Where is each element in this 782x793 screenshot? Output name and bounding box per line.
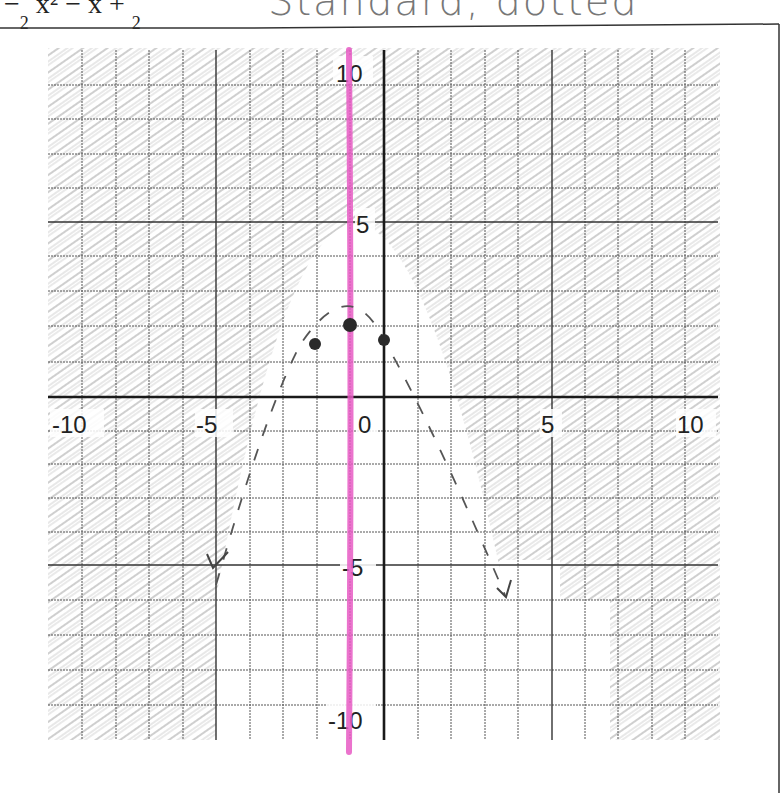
- point-y-intercept: [378, 334, 390, 346]
- axis-of-symmetry-highlight: [349, 50, 351, 752]
- x-tick-10: 10: [677, 411, 704, 438]
- x-tick-0: 0: [358, 411, 371, 438]
- x-tick-neg5: -5: [196, 411, 217, 438]
- y-tick-5: 5: [356, 211, 369, 238]
- y-tick-neg10: -10: [328, 707, 363, 734]
- point-neg2-1.5: [309, 338, 321, 350]
- x-tick-5: 5: [541, 411, 554, 438]
- graph-canvas: 10 5 -5 -10 -10 -5 0 5 10: [0, 0, 782, 793]
- x-tick-neg10: -10: [52, 411, 87, 438]
- point-vertex: [343, 318, 357, 332]
